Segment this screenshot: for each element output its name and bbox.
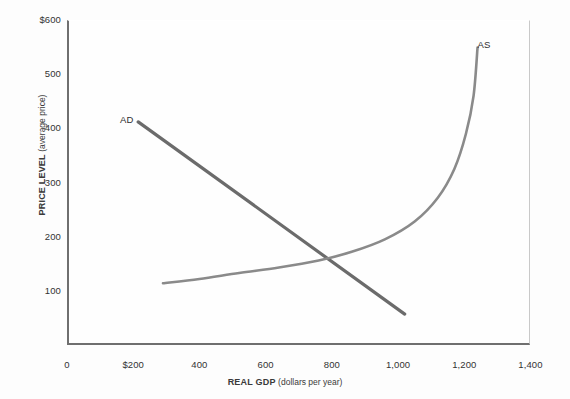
x-tick-label: 1,400 [501, 359, 561, 370]
x-tick-label: 800 [302, 359, 362, 370]
x-tick-label: 600 [236, 359, 296, 370]
y-axis-title: PRICE LEVEL (average price) [37, 75, 47, 235]
x-tick-label: 0 [37, 359, 97, 370]
as-supply-curve [163, 48, 478, 284]
x-tick-label: $200 [103, 359, 163, 370]
x-axis-title-bold: REAL GDP [228, 377, 276, 387]
figure-canvas: 100200300400500$600 0$2004006008001,0001… [0, 0, 570, 399]
x-axis-title-normal: (dollars per year) [278, 377, 342, 387]
y-axis-title-normal: (average price) [37, 95, 47, 152]
ad-demand-line [138, 122, 405, 314]
y-tick-label: $600 [21, 14, 61, 25]
series-label-as: AS [477, 39, 490, 50]
y-axis-title-bold: PRICE LEVEL [37, 154, 47, 215]
x-tick-label: 400 [169, 359, 229, 370]
y-tick-label: 100 [21, 285, 61, 296]
x-tick-label: 1,200 [434, 359, 494, 370]
x-tick-label: 1,000 [368, 359, 428, 370]
x-axis-title: REAL GDP (dollars per year) [0, 377, 570, 387]
series-label-ad: AD [120, 114, 134, 125]
curves-layer [0, 0, 570, 399]
